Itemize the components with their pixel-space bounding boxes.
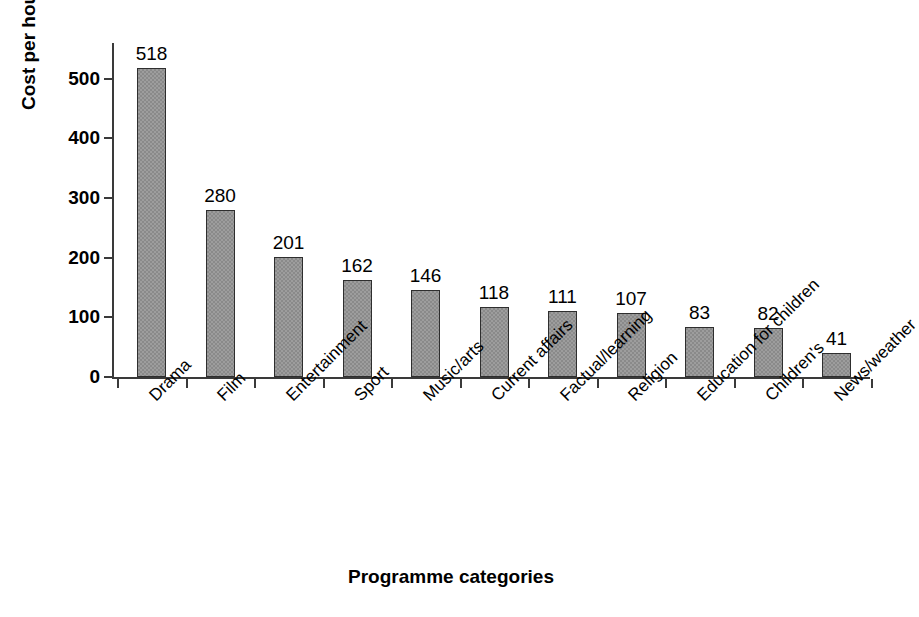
y-axis-tick-label-wrap: 200: [8, 248, 100, 267]
y-axis-line: [112, 43, 114, 379]
y-axis-tick-label-wrap: 400: [8, 128, 100, 147]
bar[interactable]: [480, 307, 509, 377]
bar[interactable]: [274, 257, 303, 377]
y-axis-tick-label: 0: [10, 367, 100, 386]
y-axis-tick-label: 400: [10, 128, 100, 147]
bar-value-label: 280: [180, 186, 260, 205]
y-axis-tick-label: 500: [10, 69, 100, 88]
x-axis-tick: [871, 379, 873, 388]
y-axis-tick-label: 300: [10, 188, 100, 207]
x-axis-tick: [734, 379, 736, 388]
x-axis-tick: [186, 379, 188, 388]
x-axis-tick: [254, 379, 256, 388]
bar-value-label: 518: [112, 44, 192, 63]
x-axis-tick: [460, 379, 462, 388]
y-axis-tick: [104, 197, 113, 199]
y-axis-title: Cost per hour (£000s): [14, 0, 44, 110]
x-axis-tick: [528, 379, 530, 388]
x-axis-tick: [597, 379, 599, 388]
bar[interactable]: [411, 290, 440, 377]
y-axis-tick-label-wrap: 0: [8, 367, 100, 386]
bar[interactable]: [137, 68, 166, 377]
x-axis-tick: [802, 379, 804, 388]
y-axis-tick-label-wrap: 100: [8, 307, 100, 326]
bar-value-label: 201: [249, 233, 329, 252]
x-axis-tick: [117, 379, 119, 388]
x-axis-tick: [665, 379, 667, 388]
bar[interactable]: [206, 210, 235, 377]
y-axis-tick-label-wrap: 300: [8, 188, 100, 207]
x-axis-tick: [391, 379, 393, 388]
x-axis-title: Programme categories: [0, 566, 902, 588]
bar[interactable]: [685, 327, 714, 377]
x-axis-tick: [323, 379, 325, 388]
y-axis-tick: [104, 316, 113, 318]
y-axis-tick: [104, 257, 113, 259]
y-axis-tick-label: 100: [10, 307, 100, 326]
y-axis-tick: [104, 376, 113, 378]
y-axis-tick-label: 200: [10, 248, 100, 267]
y-axis-tick: [104, 137, 113, 139]
y-axis-tick-label-wrap: 500: [8, 69, 100, 88]
y-axis-tick: [104, 78, 113, 80]
